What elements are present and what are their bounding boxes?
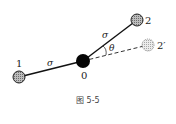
label-atom-0: 0 xyxy=(81,70,87,81)
label-sigma-bond-0-2: σ xyxy=(102,30,109,40)
label-sigma-bond-1-0: σ xyxy=(47,58,54,68)
bond-angle-diagram: 1 0 2 2′ σ σ θ 图 5-5 xyxy=(0,0,176,124)
label-atom-2: 2 xyxy=(145,15,151,26)
atom-0 xyxy=(76,54,90,68)
atom-1 xyxy=(13,71,25,83)
atom-2 xyxy=(131,14,143,26)
angle-arc xyxy=(103,46,106,55)
atom-2-prime xyxy=(142,39,154,51)
label-theta: θ xyxy=(109,43,115,53)
label-atom-1: 1 xyxy=(16,58,22,69)
figure-caption: 图 5-5 xyxy=(76,96,100,105)
label-atom-2-prime: 2′ xyxy=(157,40,166,51)
